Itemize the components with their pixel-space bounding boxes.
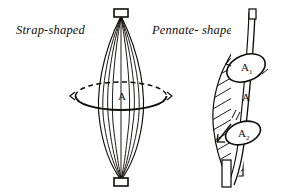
pennate-belly-area-label: A — [242, 91, 250, 103]
figure-drawing: A — [0, 0, 283, 194]
pennate-shaped-muscle-diagram: A1 A A2 — [193, 4, 278, 194]
strap-shaped-muscle-diagram: A — [70, 9, 172, 186]
muscle-architecture-figure: Strap-shaped Pennate- shaped — [0, 0, 283, 194]
pennate-bottom-tendon — [222, 160, 231, 187]
strap-bottom-tendon — [114, 178, 128, 186]
strap-top-tendon — [114, 9, 128, 17]
pennate-top-tendon — [249, 9, 256, 19]
strap-area-label: A — [118, 90, 126, 102]
